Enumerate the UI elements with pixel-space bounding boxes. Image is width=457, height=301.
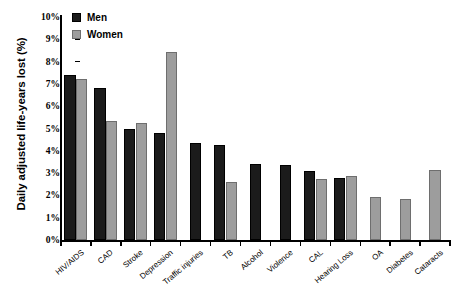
x-tick-mark (270, 241, 271, 246)
y-tick-label: 2% (26, 190, 60, 200)
bar-chart: Daily adjusted life-years lost (%) 0%1%2… (0, 0, 457, 301)
x-tick-label: CAL (307, 248, 325, 265)
x-tick-mark (330, 241, 331, 246)
bar-women (429, 170, 440, 240)
x-tick-mark (449, 241, 450, 246)
bar-women (226, 182, 237, 240)
plot-area (61, 17, 450, 240)
legend-swatch-icon (72, 13, 81, 22)
y-tick-label: 3% (26, 168, 60, 178)
y-tick-label: 4% (26, 146, 60, 156)
x-axis-line (60, 240, 451, 242)
y-tick-label: 8% (26, 57, 60, 67)
legend-item: Women (72, 27, 123, 42)
bar-men (280, 165, 291, 240)
x-tick-mark (120, 241, 121, 246)
chart-legend: MenWomen (72, 10, 123, 44)
bar-men (250, 164, 261, 240)
bar-men (64, 75, 75, 240)
legend-item: Men (72, 10, 123, 25)
x-tick-mark (60, 241, 61, 246)
x-tick-label: Cataracts (412, 248, 444, 277)
x-tick-mark (180, 241, 181, 246)
bar-women (346, 176, 357, 240)
y-axis-ticks: 0%1%2%3%4%5%6%7%8%9%10% (20, 0, 60, 301)
bar-women (400, 199, 411, 240)
x-tick-label: Violence (266, 248, 295, 275)
legend-label: Men (87, 12, 107, 23)
y-tick-label: 0% (26, 235, 60, 245)
x-tick-mark (150, 241, 151, 246)
bar-women (106, 121, 117, 240)
x-tick-label: TB (221, 248, 235, 261)
bar-men (124, 129, 135, 241)
bar-men (334, 178, 345, 240)
y-tick-label: 7% (26, 79, 60, 89)
x-tick-label: Diabetes (385, 248, 415, 275)
x-tick-label: Stroke (122, 248, 145, 270)
bar-men (94, 88, 105, 240)
x-tick-label: OA (370, 248, 385, 262)
legend-label: Women (87, 29, 123, 40)
bar-men (154, 133, 165, 240)
x-tick-mark (360, 241, 361, 246)
y-tick-label: 10% (26, 12, 60, 22)
x-tick-mark (300, 241, 301, 246)
x-tick-mark (210, 241, 211, 246)
bar-men (214, 145, 225, 240)
bar-women (76, 79, 87, 240)
legend-swatch-icon (72, 30, 81, 39)
bar-women (316, 179, 327, 240)
x-tick-mark (389, 241, 390, 246)
bar-women (166, 52, 177, 240)
y-tick-label: 5% (26, 124, 60, 134)
bar-women (136, 123, 147, 240)
x-tick-mark (90, 241, 91, 246)
y-tick-label: 9% (26, 34, 60, 44)
x-tick-label: Alcohol (239, 248, 265, 272)
bar-women (370, 197, 381, 240)
bar-men (304, 171, 315, 240)
x-tick-mark (240, 241, 241, 246)
bar-men (190, 143, 201, 240)
y-tick-label: 6% (26, 101, 60, 111)
y-tick-label: 1% (26, 213, 60, 223)
x-tick-label: CAD (97, 248, 116, 266)
x-tick-mark (419, 241, 420, 246)
